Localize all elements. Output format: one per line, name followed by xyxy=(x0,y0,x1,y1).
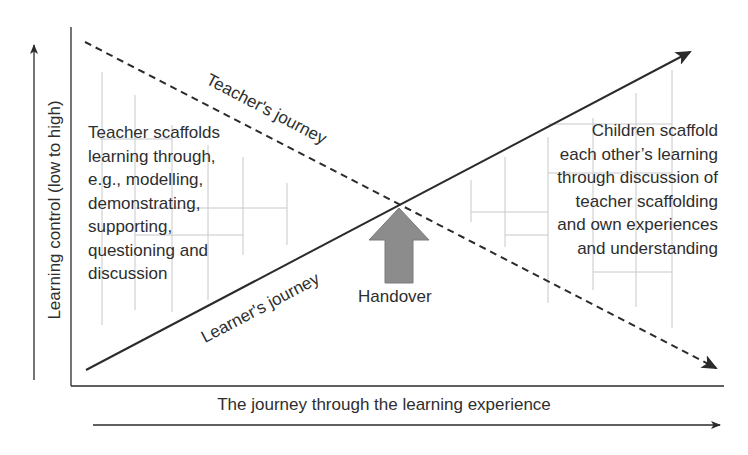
text-line: each other’s learning xyxy=(557,143,718,167)
text-line: learning through, xyxy=(88,145,220,169)
text-line: teacher scaffolding xyxy=(557,190,718,214)
text-line: supporting, xyxy=(88,215,220,239)
handover-arrow-icon xyxy=(369,208,429,283)
text-line: demonstrating, xyxy=(88,192,220,216)
x-axis-label: The journey through the learning experie… xyxy=(0,395,748,415)
text-line: through discussion of xyxy=(557,166,718,190)
teacher-scaffolds-text: Teacher scaffolds learning through, e.g.… xyxy=(88,121,220,286)
children-scaffold-text: Children scaffold each other’s learning … xyxy=(557,119,718,260)
text-line: and own experiences xyxy=(557,213,718,237)
y-axis-label: Learning control (low to high) xyxy=(45,100,65,319)
journey-diagram: Learning control (low to high) The journ… xyxy=(0,0,748,455)
text-line: questioning and xyxy=(88,239,220,263)
handover-label: Handover xyxy=(358,287,432,307)
text-line: e.g., modelling, xyxy=(88,168,220,192)
text-line: discussion xyxy=(88,262,220,286)
text-line: and understanding xyxy=(557,237,718,261)
text-line: Teacher scaffolds xyxy=(88,121,220,145)
text-line: Children scaffold xyxy=(557,119,718,143)
